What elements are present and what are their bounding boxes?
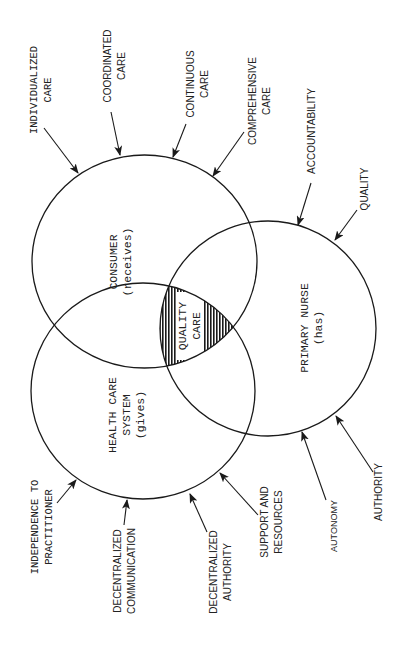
arrow-comprehensive-care bbox=[213, 132, 244, 176]
svg-text:CARE: CARE bbox=[116, 52, 127, 80]
quality-care-line1: QUALITY bbox=[176, 302, 189, 350]
svg-text:DECENTRALIZED: DECENTRALIZED bbox=[112, 529, 123, 612]
label-coordinated-care: COORDINATED CARE bbox=[102, 29, 127, 102]
arrow-autonomy bbox=[302, 432, 326, 500]
arrow-continuous-care bbox=[173, 124, 186, 157]
consumer-title: CONSUMER bbox=[107, 234, 120, 289]
arrow-coordinated-care bbox=[111, 112, 120, 155]
label-comprehensive-care: COMPREHENSIVE CARE bbox=[247, 57, 272, 145]
arrow-decentralized-communication bbox=[124, 500, 127, 525]
label-decentralized-communication: DECENTRALIZED COMMUNICATION bbox=[112, 528, 137, 614]
venn-diagram: CONSUMER (receives) HEALTH CARE SYSTEM (… bbox=[0, 0, 400, 647]
label-authority: AUTHORITY bbox=[373, 463, 384, 521]
consumer-subtitle: (receives) bbox=[121, 227, 134, 296]
health-care-system-title: HEALTH CARE bbox=[106, 377, 119, 453]
svg-text:CARE: CARE bbox=[261, 87, 272, 115]
quality-care-line2: CARE bbox=[190, 312, 203, 340]
label-accountability: ACCOUNTABILITY bbox=[306, 88, 317, 174]
arrow-support-and-resources bbox=[220, 473, 258, 515]
svg-text:INDEPENDENCE TO: INDEPENDENCE TO bbox=[29, 480, 41, 575]
arrow-authority bbox=[336, 416, 373, 472]
svg-text:RESOURCES: RESOURCES bbox=[273, 490, 284, 554]
svg-text:PRACTITIONER: PRACTITIONER bbox=[43, 489, 55, 565]
svg-text:SUPPORT AND: SUPPORT AND bbox=[259, 486, 270, 557]
label-support-and-resources: SUPPORT AND RESOURCES bbox=[259, 486, 284, 557]
label-individualized-care: INDIVIDUALIZED CARE bbox=[28, 46, 54, 134]
health-care-system-title2: SYSTEM bbox=[120, 394, 133, 436]
svg-text:ACCOUNTABILITY: ACCOUNTABILITY bbox=[306, 88, 317, 174]
svg-text:AUTHORITY: AUTHORITY bbox=[373, 463, 384, 521]
svg-text:QUALITY: QUALITY bbox=[359, 167, 370, 210]
label-decentralized-authority: DECENTRALIZED AUTHORITY bbox=[208, 530, 233, 613]
label-autonomy: AUTONOMY bbox=[329, 500, 339, 552]
label-continuous-care: CONTINUOUS CARE bbox=[185, 50, 210, 118]
svg-text:DECENTRALIZED: DECENTRALIZED bbox=[208, 530, 219, 613]
svg-text:CARE: CARE bbox=[42, 77, 54, 102]
svg-text:COORDINATED: COORDINATED bbox=[102, 29, 113, 102]
arrow-accountability bbox=[298, 183, 311, 225]
arrow-independence-to-practitioner bbox=[57, 480, 76, 503]
health-care-system-label: HEALTH CARE SYSTEM (gives) bbox=[106, 377, 147, 453]
svg-text:COMPREHENSIVE: COMPREHENSIVE bbox=[247, 57, 258, 145]
arrow-quality bbox=[335, 210, 357, 240]
consumer-label: CONSUMER (receives) bbox=[107, 227, 134, 296]
svg-text:AUTHORITY: AUTHORITY bbox=[222, 543, 233, 601]
svg-text:AUTONOMY: AUTONOMY bbox=[329, 500, 339, 552]
svg-text:INDIVIDUALIZED: INDIVIDUALIZED bbox=[28, 46, 40, 134]
primary-nurse-label: PRIMARY NURSE (has) bbox=[298, 283, 325, 373]
svg-text:COMMUNICATION: COMMUNICATION bbox=[126, 528, 137, 614]
label-independence-to-practitioner: INDEPENDENCE TO PRACTITIONER bbox=[29, 480, 55, 575]
label-quality: QUALITY bbox=[359, 167, 370, 210]
svg-text:CARE: CARE bbox=[199, 70, 210, 98]
arrow-individualized-care bbox=[44, 128, 78, 173]
arrow-decentralized-authority bbox=[190, 494, 207, 532]
health-care-system-subtitle: (gives) bbox=[134, 391, 147, 439]
svg-text:CONTINUOUS: CONTINUOUS bbox=[185, 50, 196, 118]
primary-nurse-subtitle: (has) bbox=[312, 311, 325, 346]
primary-nurse-title: PRIMARY NURSE bbox=[298, 283, 311, 373]
